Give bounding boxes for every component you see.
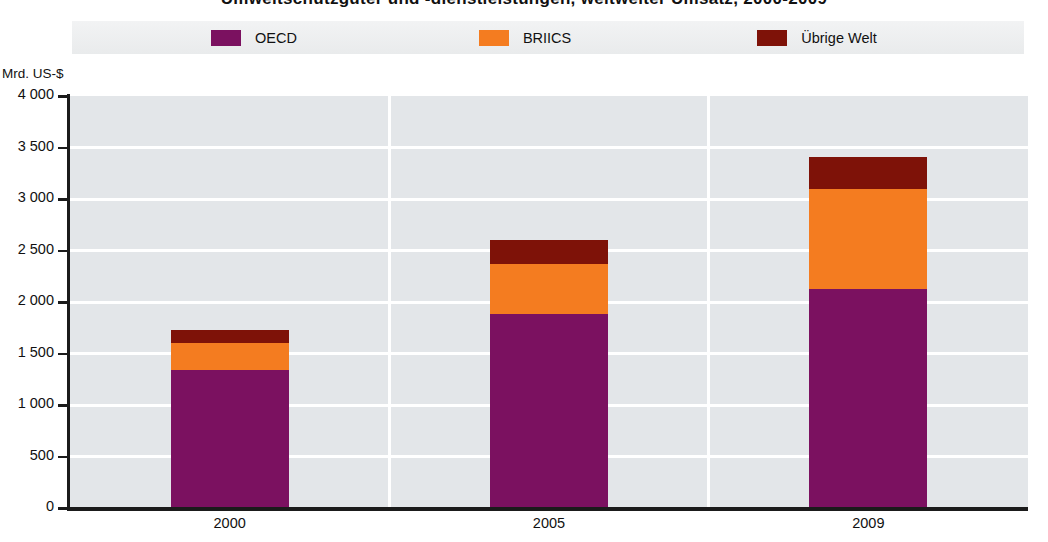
y-axis-tick (58, 353, 70, 356)
chart-legend: OECD BRIICS Übrige Welt (72, 21, 1024, 54)
bar-segment (490, 264, 608, 314)
y-axis-tick-label: 3 500 (0, 138, 54, 154)
y-axis-tick-label: 3 000 (0, 189, 54, 205)
y-axis-tick (58, 456, 70, 459)
bar-2005[interactable] (490, 240, 608, 508)
bar-2009[interactable] (809, 157, 927, 508)
y-axis-tick (58, 95, 70, 98)
x-axis-line (67, 507, 1028, 511)
legend-label-uebrige-welt: Übrige Welt (801, 30, 876, 46)
bar-segment (809, 189, 927, 289)
legend-swatch-uebrige-welt-icon (757, 30, 787, 46)
bar-segment (809, 157, 927, 189)
y-axis-tick-label: 0 (0, 498, 54, 514)
gridline (70, 146, 1028, 149)
y-axis-tick (58, 404, 70, 407)
chart-title: Umweltschutzgüter und -dienstleistungen,… (0, 0, 1048, 9)
legend-swatch-oecd-icon (211, 30, 241, 46)
legend-item-uebrige-welt[interactable]: Übrige Welt (757, 21, 876, 54)
plot-area (70, 96, 1028, 508)
category-separator (388, 96, 391, 508)
x-axis-tick-label: 2005 (489, 515, 609, 531)
category-separator (707, 96, 710, 508)
y-axis-tick (58, 250, 70, 253)
y-axis-tick (58, 147, 70, 150)
y-axis-tick (58, 301, 70, 304)
y-axis-tick (58, 198, 70, 201)
bar-2000[interactable] (171, 330, 289, 508)
legend-item-oecd[interactable]: OECD (211, 21, 297, 54)
bar-segment (809, 289, 927, 508)
bar-segment (490, 240, 608, 264)
bar-segment (171, 330, 289, 343)
x-axis-tick-label: 2009 (808, 515, 928, 531)
bar-segment (171, 370, 289, 508)
legend-label-oecd: OECD (255, 30, 297, 46)
y-axis-tick (58, 507, 70, 510)
y-axis-tick-label: 1 500 (0, 344, 54, 360)
legend-item-briics[interactable]: BRIICS (479, 21, 571, 54)
legend-swatch-briics-icon (479, 30, 509, 46)
y-axis-unit-label: Mrd. US-$ (2, 66, 64, 81)
bar-segment (490, 314, 608, 508)
y-axis-tick-label: 4 000 (0, 86, 54, 102)
legend-label-briics: BRIICS (523, 30, 571, 46)
y-axis-tick-label: 2 000 (0, 292, 54, 308)
y-axis-tick-label: 2 500 (0, 241, 54, 257)
bar-segment (171, 343, 289, 370)
x-axis-tick-label: 2000 (170, 515, 290, 531)
y-axis-tick-label: 1 000 (0, 395, 54, 411)
y-axis-tick-label: 500 (0, 447, 54, 463)
